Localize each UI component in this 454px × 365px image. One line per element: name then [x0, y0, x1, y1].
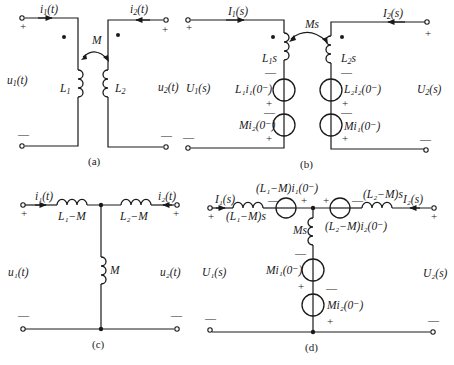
label-mutual-m: M	[91, 34, 103, 46]
label-u1: u1(t)	[7, 74, 28, 88]
terminal-b-2minus	[424, 148, 428, 152]
label-l2s: L2s	[340, 52, 356, 66]
sign-minus: —	[267, 194, 280, 206]
terminal-d-2minus	[431, 330, 435, 334]
label-i1: i1(t)	[40, 3, 58, 17]
junction-node	[311, 206, 315, 210]
sign-minus: —	[204, 312, 217, 324]
sign-plus: +	[266, 132, 272, 144]
sign-minus: —	[294, 247, 307, 259]
panel-c: i₁(t) i₂(t) L₁−M L₂−M M u₁(t) u₂(t) + + …	[8, 190, 183, 351]
sign-minus: —	[419, 133, 432, 145]
label-U1: U1(s)	[186, 82, 211, 96]
sign-minus: —	[160, 129, 173, 141]
sign-plus: +	[431, 210, 437, 222]
terminal-c-2minus	[175, 327, 179, 331]
sign-minus: —	[17, 309, 30, 321]
caption-a: (a)	[88, 155, 101, 168]
label-U2: U2(s)	[417, 83, 442, 97]
wire-b-left-top	[191, 20, 284, 33]
inductor-l2m-s-icon	[362, 202, 392, 208]
caption-d: (d)	[305, 341, 318, 354]
label-src-mi2: Mi₂(0⁻)	[238, 119, 275, 132]
panel-d: I₁(s) I₂(s) (L₁−M)s (L₂−M)s (L₁−M)i₁(0⁻)…	[202, 182, 448, 354]
terminal-b-1minus	[186, 146, 190, 150]
panel-a: i1(t) i2(t) + + — — M L1 L2 u1(t) u2(t) …	[7, 3, 179, 168]
label-imp-left: (L₁−M)s	[226, 210, 266, 223]
inductor-ms-icon	[308, 218, 313, 245]
inductor-l1-icon	[78, 70, 83, 97]
sign-plus: +	[323, 194, 329, 206]
polarity-dot-icon	[116, 33, 120, 37]
wire-b-right-top	[331, 22, 425, 36]
inductor-l1s-icon	[284, 33, 289, 60]
sign-plus: +	[298, 280, 304, 292]
sign-plus: +	[301, 194, 307, 206]
label-imp-right: (L₂−M)s	[363, 188, 403, 201]
inductor-l1m-s-icon	[233, 202, 263, 208]
label-i2: i₂(t)	[158, 190, 176, 203]
polarity-dot-icon	[62, 35, 66, 39]
label-mutual-ms: Ms	[304, 18, 320, 30]
junction-node	[99, 327, 103, 331]
label-l1-minus-m: L₁−M	[57, 210, 87, 222]
arrowhead-icon	[81, 54, 87, 60]
coupled-inductor-figure: i1(t) i2(t) + + — — M L1 L2 u1(t) u2(t) …	[0, 0, 454, 365]
junction-node	[311, 330, 315, 334]
inductor-l1-minus-m-icon	[57, 199, 87, 205]
panel-b: I1(s) I2(s) Ms L1s L2s L₁i₁(0⁻) Mi₂(0⁻) …	[182, 5, 442, 171]
terminal-d-1minus	[208, 328, 212, 332]
wire-a-left-bottom	[25, 97, 78, 146]
polarity-dot-icon	[271, 35, 275, 39]
label-l2-minus-m: L₂−M	[119, 210, 149, 222]
label-U2: U₂(s)	[423, 267, 448, 280]
sign-plus: +	[162, 23, 168, 35]
sign-minus: —	[170, 309, 183, 321]
inductor-l2-minus-m-icon	[121, 199, 151, 205]
sign-plus: +	[21, 207, 27, 219]
label-i2: i2(t)	[130, 3, 148, 17]
inductor-m-icon	[101, 257, 106, 284]
polarity-dot-icon	[340, 35, 344, 39]
label-I1: I₁(s)	[214, 193, 235, 206]
sign-plus: +	[342, 132, 348, 144]
label-I1: I1(s)	[227, 5, 248, 19]
label-I2: I2(s)	[382, 7, 403, 21]
sign-minus: —	[427, 314, 440, 326]
wire-a-left-top	[25, 18, 78, 70]
label-l1: L1	[59, 82, 70, 96]
label-src-l1i1: L₁i₁(0⁻)	[234, 83, 272, 96]
caption-b: (b)	[300, 158, 313, 171]
label-src-mi2: Mi₂(0⁻)	[326, 299, 363, 312]
label-u2: u2(t)	[158, 81, 179, 95]
wire-a-right-bottom	[108, 97, 163, 147]
sign-minus: —	[17, 128, 30, 140]
label-src-left: (L₁−M)i₁(0⁻)	[256, 182, 318, 195]
sign-plus: +	[20, 20, 26, 32]
label-l1s: L1s	[261, 52, 277, 66]
label-l2: L2	[114, 82, 125, 96]
label-m: M	[109, 264, 121, 276]
terminal-a-2minus	[164, 145, 168, 149]
label-u2: u₂(t)	[160, 266, 181, 279]
terminal-c-1minus	[21, 327, 25, 331]
terminal-b-2plus	[425, 20, 429, 24]
terminal-a-1minus	[20, 144, 24, 148]
label-src-right: (L₂−M)i₂(0⁻)	[325, 220, 387, 233]
sign-plus: +	[327, 315, 333, 327]
sign-plus: +	[425, 27, 431, 39]
label-src-l2i2: L₂i₂(0⁻)	[343, 83, 381, 96]
sign-plus: +	[186, 21, 192, 33]
caption-c: (c)	[92, 338, 105, 351]
label-src-mi1: Mi₁(0⁻)	[265, 264, 302, 277]
mutual-coupling-arc	[291, 32, 326, 41]
sign-minus: —	[264, 66, 277, 78]
sign-minus: —	[263, 106, 276, 118]
sign-minus: —	[340, 66, 353, 78]
terminal-a-2plus	[164, 18, 168, 22]
label-U1: U₁(s)	[202, 266, 227, 279]
label-src-mi1: Mi₁(0⁻)	[343, 120, 380, 133]
wire-a-right-top	[108, 20, 163, 70]
label-I2: I₂(s)	[402, 193, 423, 206]
sign-plus: +	[173, 207, 179, 219]
